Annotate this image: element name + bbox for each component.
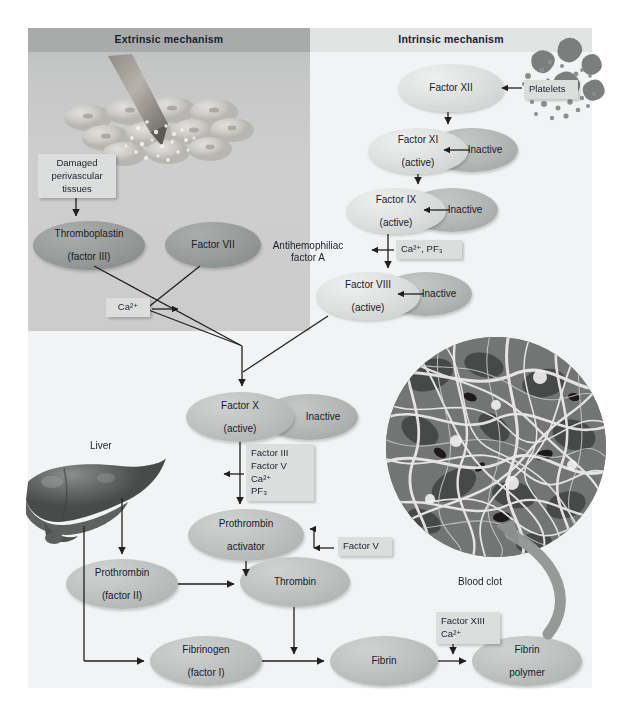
damaged-tissue-line-1: Damaged — [43, 157, 111, 170]
clot-pointer-arrowhead — [496, 520, 520, 546]
factor-xiii-ca-callout: Factor XIII Ca²⁺ — [436, 612, 500, 644]
ca-extrinsic-callout: Ca²⁺ — [106, 298, 150, 317]
factor-v-label: Factor V — [343, 540, 379, 551]
cofactor-item-0: Factor III — [251, 447, 309, 460]
ca-pf3-callout: Ca²⁺, PF₃ — [396, 240, 462, 259]
factor-xiii-item-0: Factor XIII — [441, 615, 495, 628]
platelets-label: Platelets — [529, 83, 565, 94]
cofactor-item-2: Ca²⁺ — [251, 473, 309, 486]
damaged-tissue-callout: Damaged perivascular tissues — [38, 154, 116, 198]
ca-extrinsic-label: Ca²⁺ — [118, 301, 138, 312]
factor-x-cofactor-callout: Factor III Factor V Ca²⁺ PF₃ — [246, 444, 314, 501]
blood-clot-label: Blood clot — [458, 576, 502, 588]
blood-clot-label-text: Blood clot — [458, 576, 502, 587]
factor-xiii-item-1: Ca²⁺ — [441, 628, 495, 641]
antihemophiliac-line-1: Antihemophiliac — [253, 240, 363, 252]
damaged-tissue-line-3: tissues — [43, 183, 111, 196]
cofactor-item-3: PF₃ — [251, 485, 309, 498]
liver-label: Liver — [90, 440, 112, 452]
factor-v-callout: Factor V — [338, 537, 392, 556]
clot-pointer-arrow — [510, 534, 560, 634]
coagulation-cascade-figure: Extrinsic mechanism — [28, 28, 592, 688]
liver-label-text: Liver — [90, 440, 112, 451]
antihemophiliac-line-2: factor A — [253, 252, 363, 264]
cascade-connectors — [28, 28, 592, 688]
platelets-callout: Platelets — [524, 80, 578, 99]
antihemophiliac-factor-label: Antihemophiliac factor A — [253, 240, 363, 264]
cofactor-item-1: Factor V — [251, 460, 309, 473]
damaged-tissue-line-2: perivascular — [43, 170, 111, 183]
ca-pf3-label: Ca²⁺, PF₃ — [401, 243, 443, 254]
